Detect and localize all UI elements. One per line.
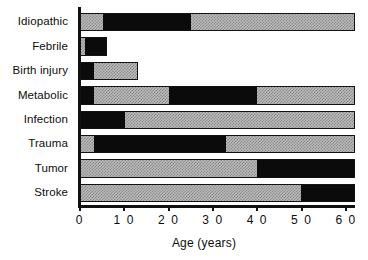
category-label: Birth injury — [0, 59, 74, 83]
x-axis-ticks: 01 02 03 04 05 06 0 — [80, 205, 355, 235]
bar-segment-black — [81, 63, 94, 79]
bar-row — [80, 10, 355, 34]
bar-segment-gray — [94, 63, 137, 79]
bar-row — [80, 83, 355, 107]
bar-row — [80, 181, 355, 205]
bar — [80, 13, 355, 31]
bar-row — [80, 59, 355, 83]
bar-segment-black — [103, 14, 191, 30]
bar-segment-black — [81, 87, 94, 103]
category-label: Stroke — [0, 181, 74, 205]
category-label: Infection — [0, 108, 74, 132]
x-tick-mark — [212, 205, 214, 211]
x-tick-mark — [123, 205, 125, 211]
bar-row — [80, 132, 355, 156]
bar-segment-gray — [191, 14, 354, 30]
bar — [80, 62, 138, 80]
x-tick-label: 6 0 — [335, 213, 356, 227]
bar-segment-gray — [81, 136, 94, 152]
bar-row — [80, 108, 355, 132]
x-axis-title-text: Age (years) — [132, 236, 236, 250]
bar-segment-black — [169, 87, 257, 103]
plot-area — [80, 10, 355, 205]
x-tick-label: 1 0 — [114, 213, 135, 227]
x-tick-label: 0 — [76, 213, 84, 227]
x-tick-label: 2 0 — [158, 213, 179, 227]
category-label: Febrile — [0, 34, 74, 58]
bar-segment-gray — [94, 87, 169, 103]
x-tick-mark — [79, 205, 81, 211]
bar-segment-black — [257, 160, 354, 176]
category-label: Tumor — [0, 156, 74, 180]
category-axis-labels: IdiopathicFebrileBirth injuryMetabolicIn… — [0, 10, 74, 205]
bar — [80, 111, 355, 129]
x-tick-mark — [345, 205, 347, 211]
x-axis-title: Age (years) — [0, 236, 368, 250]
bar — [80, 159, 355, 177]
bar-segment-black — [85, 38, 106, 54]
bar-segment-gray — [81, 14, 103, 30]
bar-chart: IdiopathicFebrileBirth injuryMetabolicIn… — [0, 0, 368, 260]
bar — [80, 86, 355, 104]
x-tick-label: 4 0 — [247, 213, 268, 227]
x-tick-label: 5 0 — [291, 213, 312, 227]
category-label: Metabolic — [0, 83, 74, 107]
bar-segment-gray — [226, 136, 354, 152]
category-label: Trauma — [0, 132, 74, 156]
bar-row — [80, 34, 355, 58]
x-tick-mark — [301, 205, 303, 211]
bar-segment-black — [81, 112, 125, 128]
bar-rows — [80, 10, 355, 205]
x-tick-mark — [256, 205, 258, 211]
bar-segment-gray — [257, 87, 354, 103]
bar-segment-black — [301, 185, 354, 201]
bar-segment-gray — [81, 185, 301, 201]
bar — [80, 135, 355, 153]
bar-segment-black — [94, 136, 226, 152]
bar — [80, 184, 355, 202]
x-tick-mark — [168, 205, 170, 211]
x-tick-label: 3 0 — [202, 213, 223, 227]
bar-row — [80, 156, 355, 180]
category-label: Idiopathic — [0, 10, 74, 34]
bar — [80, 37, 107, 55]
bar-segment-gray — [81, 160, 257, 176]
bar-segment-gray — [125, 112, 354, 128]
